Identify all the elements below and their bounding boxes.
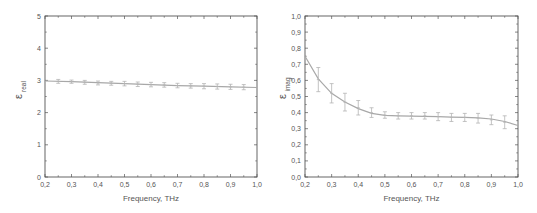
y-tick-label: 0,6: [291, 77, 301, 84]
x-tick-label: 0,7: [433, 181, 443, 188]
y-tick-label: 1: [37, 141, 41, 148]
x-axis-label: Frequency, THz: [383, 194, 439, 203]
x-tick-label: 0,7: [173, 181, 183, 188]
x-tick-label: 0,9: [487, 181, 497, 188]
y-tick-label: 0: [37, 174, 41, 181]
y-tick-label: 0,3: [291, 125, 301, 132]
y-axis-label-symbol: ε: [12, 94, 24, 99]
y-tick-label: 1,0: [291, 13, 301, 20]
x-tick-label: 0,6: [146, 181, 156, 188]
y-tick-label: 0,9: [291, 29, 301, 36]
chart-epsilon-real: 0,20,30,40,50,60,70,80,91,0012345Frequen…: [0, 0, 270, 213]
x-tick-label: 1,0: [513, 181, 523, 188]
x-tick-label: 0,2: [300, 181, 310, 188]
y-tick-label: 0,5: [291, 93, 301, 100]
y-tick-label: 2: [37, 109, 41, 116]
y-axis-label: εimag: [276, 77, 292, 99]
x-tick-label: 0,6: [407, 181, 417, 188]
plot-frame: [45, 16, 257, 177]
chart-epsilon-imag: 0,20,30,40,50,60,70,80,91,00,00,10,20,30…: [270, 0, 537, 213]
y-axis-label: εreal: [12, 81, 27, 99]
x-tick-label: 0,3: [327, 181, 337, 188]
x-tick-label: 1,0: [252, 181, 262, 188]
chart-epsilon-imag-svg: 0,20,30,40,50,60,70,80,91,00,00,10,20,30…: [270, 0, 537, 213]
y-tick-label: 4: [37, 45, 41, 52]
y-axis-label-subscript: imag: [284, 77, 292, 91]
x-tick-label: 0,2: [40, 181, 50, 188]
x-tick-label: 0,3: [67, 181, 77, 188]
y-tick-label: 0,4: [291, 109, 301, 116]
y-tick-label: 0,0: [291, 174, 301, 181]
chart-epsilon-real-svg: 0,20,30,40,50,60,70,80,91,0012345Frequen…: [0, 0, 270, 213]
y-tick-label: 0,1: [291, 157, 301, 164]
y-tick-label: 0,7: [291, 61, 301, 68]
y-tick-label: 0,2: [291, 141, 301, 148]
x-tick-label: 0,9: [226, 181, 236, 188]
y-axis-label-symbol: ε: [276, 94, 288, 99]
x-tick-label: 0,8: [460, 181, 470, 188]
x-tick-label: 0,8: [199, 181, 209, 188]
y-tick-label: 5: [37, 13, 41, 20]
x-tick-label: 0,4: [353, 181, 363, 188]
x-axis-label: Frequency, THz: [123, 194, 179, 203]
x-tick-label: 0,5: [120, 181, 130, 188]
x-tick-label: 0,4: [93, 181, 103, 188]
y-axis-label-subscript: real: [20, 81, 27, 92]
x-tick-label: 0,5: [380, 181, 390, 188]
y-tick-label: 3: [37, 77, 41, 84]
y-tick-label: 0,8: [291, 45, 301, 52]
